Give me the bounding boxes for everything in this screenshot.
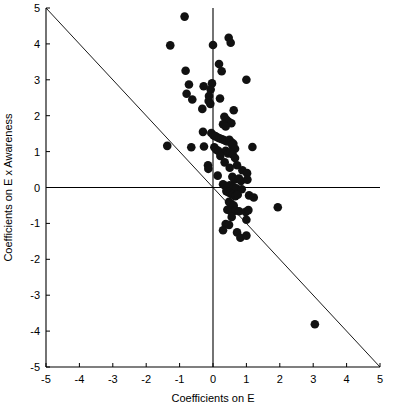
y-tick-label: 1	[34, 146, 40, 158]
y-tick-label: -1	[30, 217, 40, 229]
y-axis-title: Coefficients on E x Awareness	[2, 113, 14, 262]
data-point	[209, 41, 218, 50]
data-point	[219, 226, 228, 235]
data-point	[226, 39, 235, 48]
x-tick-label: 3	[310, 373, 316, 385]
data-point	[181, 67, 190, 76]
x-axis-title: Coefficients on E	[172, 392, 255, 404]
data-point	[244, 206, 253, 215]
x-tick-label: -3	[108, 373, 118, 385]
data-point	[199, 128, 208, 137]
data-point	[274, 203, 283, 212]
data-point	[249, 193, 258, 202]
y-tick-label: -4	[30, 325, 40, 337]
data-point	[198, 105, 207, 114]
x-tick-label: -4	[75, 373, 85, 385]
y-tick-label: -3	[30, 289, 40, 301]
x-tick-label: -2	[141, 373, 151, 385]
data-point	[248, 143, 257, 152]
x-tick-label: 0	[210, 373, 216, 385]
x-tick-label: -1	[175, 373, 185, 385]
data-point	[229, 106, 238, 115]
data-point	[163, 142, 172, 151]
data-point	[227, 213, 236, 222]
data-point	[242, 76, 251, 85]
x-tick-label: 1	[243, 373, 249, 385]
data-point	[225, 163, 234, 172]
x-tick-label: -5	[41, 373, 51, 385]
y-tick-label: 4	[34, 38, 40, 50]
x-tick-label: 5	[377, 373, 383, 385]
data-point	[187, 143, 196, 152]
x-tick-label: 2	[277, 373, 283, 385]
data-point	[217, 67, 226, 76]
y-tick-label: -5	[30, 361, 40, 373]
scatter-plot-figure: -5-4-3-2-1012345-5-4-3-2-1012345Coeffici…	[0, 0, 399, 409]
chart-canvas: -5-4-3-2-1012345-5-4-3-2-1012345Coeffici…	[0, 0, 399, 409]
x-tick-label: 4	[344, 373, 350, 385]
y-tick-label: 2	[34, 110, 40, 122]
data-point	[166, 41, 175, 50]
data-point	[242, 216, 251, 225]
data-point	[213, 171, 222, 180]
data-point	[188, 95, 197, 104]
data-point	[200, 142, 209, 151]
data-point	[206, 100, 215, 109]
data-point	[204, 165, 213, 174]
data-point	[233, 190, 242, 199]
data-point	[221, 122, 230, 131]
y-tick-label: 5	[34, 2, 40, 14]
data-point	[216, 94, 225, 103]
data-point	[311, 320, 320, 329]
data-point	[243, 175, 252, 184]
y-tick-label: 3	[34, 74, 40, 86]
data-point	[185, 80, 194, 89]
y-tick-label: 0	[34, 182, 40, 194]
data-point	[242, 231, 251, 240]
data-point	[180, 12, 189, 21]
y-tick-label: -2	[30, 253, 40, 265]
